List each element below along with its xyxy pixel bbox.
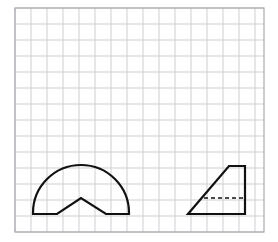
- right-trapezoid-shape: [188, 166, 245, 214]
- worksheet-canvas: [0, 0, 278, 242]
- geometry-figure-svg: [0, 0, 278, 242]
